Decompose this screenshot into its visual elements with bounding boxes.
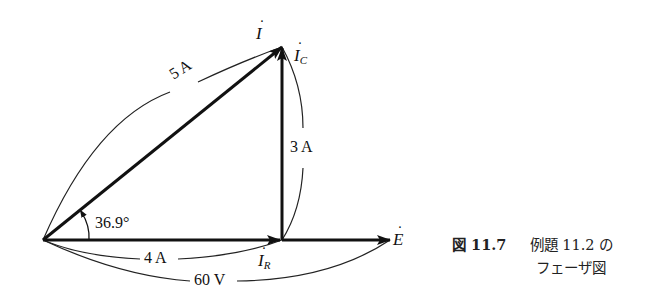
arc-5A-right xyxy=(198,47,282,82)
magnitude-60V: 60 V xyxy=(194,271,225,289)
label-I: · I xyxy=(256,24,262,44)
caption-line2: フェーザ図 xyxy=(536,256,606,277)
arc-60V-left xyxy=(43,240,190,281)
figure-number: 図 11.7 xyxy=(452,236,506,253)
arc-3A-bottom xyxy=(282,168,303,240)
dimension-arcs xyxy=(43,47,390,281)
label-IC: · IC xyxy=(294,46,307,66)
label-IR: · IR xyxy=(258,251,270,271)
arc-4A-left xyxy=(43,240,140,259)
figure-caption: 図 11.7 例題 11.2 の xyxy=(452,233,613,254)
magnitude-4A: 4 A xyxy=(144,249,167,267)
angle-arc xyxy=(82,213,89,240)
label-E: · E xyxy=(393,230,403,250)
angle-label: 36.9° xyxy=(95,214,129,232)
caption-line1: 例題 11.2 の xyxy=(530,237,614,253)
phasor-I xyxy=(43,47,282,240)
magnitude-3A: 3 A xyxy=(290,138,313,156)
